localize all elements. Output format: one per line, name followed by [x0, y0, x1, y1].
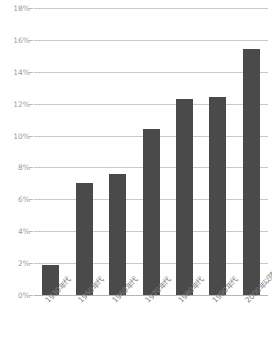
y-axis-label: 10%	[0, 131, 30, 140]
plot-area	[34, 8, 268, 295]
y-axis-tick	[29, 104, 33, 105]
y-axis-label: 8%	[0, 163, 30, 172]
bar	[76, 183, 93, 295]
y-axis-tick	[29, 295, 33, 296]
y-axis-tick	[29, 136, 33, 137]
y-axis-tick	[29, 167, 33, 168]
y-axis-label: 16%	[0, 35, 30, 44]
y-axis-label: 12%	[0, 99, 30, 108]
bar	[109, 174, 126, 295]
bar	[176, 99, 193, 295]
y-axis-label: 6%	[0, 195, 30, 204]
y-axis-tick	[29, 263, 33, 264]
y-axis-tick	[29, 8, 33, 9]
bar	[209, 97, 226, 295]
gridline	[34, 8, 268, 9]
x-axis: 1930年代1950年代1960年代1970年代1980年代1990年代2000…	[34, 297, 268, 349]
y-axis-tick	[29, 40, 33, 41]
bar	[143, 129, 160, 295]
gridline	[34, 104, 268, 105]
bar	[243, 49, 260, 295]
y-axis-label: 4%	[0, 227, 30, 236]
y-axis-tick	[29, 231, 33, 232]
gridline	[34, 40, 268, 41]
y-axis-label: 2%	[0, 259, 30, 268]
y-axis-tick	[29, 199, 33, 200]
y-axis-label: 14%	[0, 67, 30, 76]
y-axis-label: 18%	[0, 4, 30, 13]
y-axis-label: 0%	[0, 291, 30, 300]
gridline	[34, 72, 268, 73]
y-axis-tick	[29, 72, 33, 73]
bar-chart: 0%2%4%6%8%10%12%14%16%18% 1930年代1950年代19…	[0, 0, 272, 349]
